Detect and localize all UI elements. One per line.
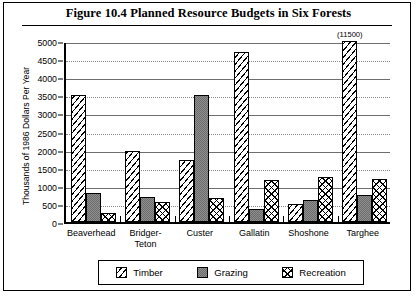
y-axis-tick-label: 3500 <box>3 92 57 102</box>
legend-item-label: Grazing <box>214 267 248 278</box>
y-axis-tick-mark <box>58 43 63 44</box>
bar-grazing[interactable] <box>249 209 264 222</box>
x-axis-tick-label: Shoshone <box>281 228 335 239</box>
solid-gray-swatch <box>197 267 208 278</box>
y-axis-tick-label: 3000 <box>3 110 57 120</box>
bar-recreation[interactable] <box>209 198 224 222</box>
bar-group-bars <box>120 43 174 222</box>
bar-group <box>229 43 283 222</box>
cross-hatch-swatch <box>282 267 293 278</box>
y-axis-tick-label: 1000 <box>3 183 57 193</box>
legend-item-label: Recreation <box>299 267 345 278</box>
y-axis-tick-label: 4000 <box>3 74 57 84</box>
legend-item-grazing[interactable]: Grazing <box>197 267 248 278</box>
figure-container: Figure 10.4 Planned Resource Budgets in … <box>0 0 417 297</box>
y-axis-tick-mark <box>58 97 63 98</box>
y-axis-tick-mark <box>58 187 63 188</box>
bar-value-annotation: (11500) <box>337 30 363 39</box>
y-axis-tick-label: 0 <box>3 219 57 229</box>
bar-timber[interactable] <box>234 52 249 222</box>
bar-group-bars <box>175 43 229 222</box>
x-axis-group-separator <box>120 216 121 222</box>
y-axis-tick-label: 500 <box>3 201 57 211</box>
x-axis-group-separator <box>338 216 339 222</box>
bar-recreation[interactable] <box>318 177 333 222</box>
bar-group: (11500) <box>338 43 392 222</box>
y-axis-tick-mark <box>58 205 63 206</box>
x-axis-tick-label: Custer <box>173 228 227 239</box>
bar-timber[interactable] <box>71 95 86 222</box>
diagonal-hatch-swatch <box>116 267 127 278</box>
legend-item-timber[interactable]: Timber <box>116 267 163 278</box>
bar-group <box>120 43 174 222</box>
x-axis-tick-label: Beaverhead <box>64 228 118 239</box>
bar-group <box>283 43 337 222</box>
legend-item-recreation[interactable]: Recreation <box>282 267 345 278</box>
bar-group-bars <box>283 43 337 222</box>
bar-recreation[interactable] <box>101 213 116 222</box>
x-axis-tick-label: Gallatin <box>227 228 281 239</box>
x-axis-group-separator <box>229 216 230 222</box>
bar-group-bars: (11500) <box>338 43 392 222</box>
x-axis-tick-label: Targhee <box>336 228 390 239</box>
bar-group-bars <box>66 43 120 222</box>
x-axis-tick-label: Bridger-Teton <box>118 228 172 249</box>
x-axis-group-separator <box>283 216 284 222</box>
bar-recreation[interactable] <box>372 179 387 222</box>
y-axis-tick-label: 5000 <box>3 38 57 48</box>
bar-timber[interactable] <box>288 204 303 222</box>
y-axis-tick-mark <box>58 61 63 62</box>
y-axis-tick-label: 4500 <box>3 56 57 66</box>
y-axis-tick-mark <box>58 115 63 116</box>
bar-timber[interactable] <box>125 151 140 222</box>
bar-recreation[interactable] <box>264 180 279 222</box>
bar-grazing[interactable] <box>194 95 209 222</box>
y-axis-tick-mark <box>58 151 63 152</box>
bar-grazing[interactable] <box>357 195 372 222</box>
plot-area: (11500) <box>64 43 390 224</box>
bar-grazing[interactable] <box>140 197 155 222</box>
y-axis-tick-mark <box>58 224 63 225</box>
y-axis-tick-label: 2000 <box>3 147 57 157</box>
bar-group <box>66 43 120 222</box>
y-axis-tick-mark <box>58 133 63 134</box>
title-divider <box>22 25 392 26</box>
y-axis-tick-mark <box>58 79 63 80</box>
bar-group-bars <box>229 43 283 222</box>
y-axis-tick-label: 2500 <box>3 129 57 139</box>
bar-timber[interactable]: (11500) <box>342 41 357 222</box>
x-axis-group-separator <box>175 216 176 222</box>
figure-title: Figure 10.4 Planned Resource Budgets in … <box>0 6 417 21</box>
bar-grazing[interactable] <box>86 193 101 222</box>
bar-grazing[interactable] <box>303 200 318 222</box>
y-axis-tick-mark <box>58 169 63 170</box>
legend-item-label: Timber <box>133 267 163 278</box>
chart-legend: TimberGrazingRecreation <box>98 260 364 285</box>
y-axis-tick-label: 1500 <box>3 165 57 175</box>
bar-recreation[interactable] <box>155 202 170 222</box>
bar-group <box>175 43 229 222</box>
bar-timber[interactable] <box>179 160 194 222</box>
